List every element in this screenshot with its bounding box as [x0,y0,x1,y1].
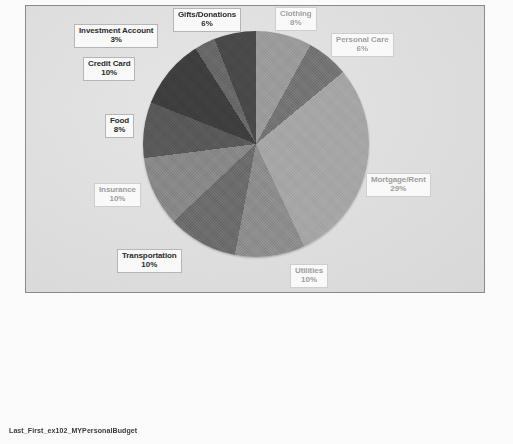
data-label-percent: 29% [371,185,426,194]
data-label-food[interactable]: Food 8% [105,114,134,138]
data-label-percent: 3% [79,36,153,45]
chart-frame: Investment Account 3% Gifts/Donations 6%… [25,5,485,293]
scanned-page: Investment Account 3% Gifts/Donations 6%… [0,0,513,444]
data-label-percent: 10% [122,261,177,270]
data-label-insurance[interactable]: Insurance 10% [94,183,141,207]
pie-slices[interactable] [143,31,369,257]
data-label-mortgage-rent[interactable]: Mortgage/Rent 29% [366,173,431,197]
data-label-percent: 10% [88,69,130,78]
data-label-credit-card[interactable]: Credit Card 10% [83,57,135,81]
data-label-percent: 10% [295,276,323,285]
chart-plot-area: Investment Account 3% Gifts/Donations 6%… [26,6,484,292]
data-label-gifts-donations[interactable]: Gifts/Donations 6% [173,8,241,32]
data-label-personal-care[interactable]: Personal Care 6% [331,33,394,57]
data-label-transportation[interactable]: Transportation 10% [117,249,182,273]
data-label-utilities[interactable]: Utilities 10% [290,264,328,288]
data-label-percent: 6% [336,45,389,54]
data-label-investment-account[interactable]: Investment Account 3% [74,24,158,48]
data-label-clothing[interactable]: Clothing 8% [275,7,317,31]
document-footer-text: Last_First_ex102_MYPersonalBudget [9,427,137,434]
data-label-percent: 6% [178,20,236,29]
pie-chart[interactable] [143,31,369,257]
data-label-percent: 10% [99,195,136,204]
data-label-percent: 8% [280,19,312,28]
data-label-percent: 8% [110,126,129,135]
